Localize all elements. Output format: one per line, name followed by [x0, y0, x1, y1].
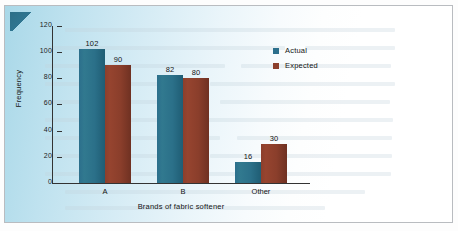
bar-expected-B — [183, 78, 209, 183]
bar-value-actual-B: 82 — [157, 65, 183, 74]
y-axis-line — [52, 26, 53, 184]
bar-value-expected-Other: 30 — [261, 134, 287, 143]
bar-value-expected-B: 80 — [183, 68, 209, 77]
y-tick-label-60: 60 — [26, 99, 52, 106]
chart-legend: Actual Expected — [273, 46, 318, 76]
x-axis-line — [52, 183, 310, 184]
bar-expected-Other — [261, 144, 287, 183]
x-tick-label-Other: Other — [235, 187, 287, 196]
actual-color-swatch-icon — [273, 48, 279, 54]
bar-actual-B — [157, 75, 183, 183]
x-axis-title: Brands of fabric softener — [52, 202, 310, 211]
legend-label-expected: Expected — [285, 61, 318, 70]
scanned-page: 0 20 40 60 80 100 — [0, 0, 458, 231]
bar-value-actual-A: 102 — [79, 39, 105, 48]
plot-area: 0 20 40 60 80 100 — [5, 6, 452, 222]
legend-item-expected: Expected — [273, 61, 318, 70]
y-tick-40: 40 — [15, 131, 52, 132]
y-tick-label-120: 120 — [26, 21, 52, 28]
legend-label-actual: Actual — [285, 46, 307, 55]
bar-expected-A — [105, 65, 131, 183]
chart-panel: 0 20 40 60 80 100 — [5, 6, 452, 222]
y-tick-label-80: 80 — [26, 73, 52, 80]
bar-value-actual-Other: 16 — [235, 152, 261, 161]
y-axis-title: Frequency — [14, 54, 23, 124]
expected-color-swatch-icon — [273, 63, 279, 69]
y-tick-0: 0 — [15, 183, 52, 184]
y-tick-20: 20 — [15, 157, 52, 158]
bar-value-expected-A: 90 — [105, 55, 131, 64]
y-tick-label-0: 0 — [26, 178, 52, 185]
legend-item-actual: Actual — [273, 46, 318, 55]
y-tick-label-100: 100 — [26, 47, 52, 54]
y-tick-label-20: 20 — [26, 152, 52, 159]
bar-actual-Other — [235, 162, 261, 183]
y-tick-label-40: 40 — [26, 126, 52, 133]
y-tick-120: 120 — [15, 26, 52, 27]
x-tick-label-A: A — [79, 187, 131, 196]
bar-actual-A — [79, 49, 105, 183]
x-tick-label-B: B — [157, 187, 209, 196]
